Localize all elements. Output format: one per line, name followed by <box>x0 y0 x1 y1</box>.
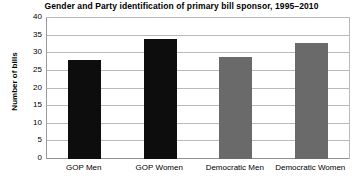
y-axis-tick-label: 30 <box>0 48 42 56</box>
y-axis-tick-label: 35 <box>0 31 42 39</box>
plot-area <box>46 17 350 159</box>
y-axis-tick-label: 20 <box>0 84 42 92</box>
x-axis-tick-label: Democratic Men <box>197 163 273 172</box>
bar-chart: Gender and Party identification of prima… <box>0 0 363 184</box>
y-axis-tick-label: 15 <box>0 101 42 109</box>
x-axis-tick-label: Democratic Women <box>273 163 349 172</box>
bar <box>295 43 328 159</box>
bar-series <box>47 18 349 159</box>
y-axis-tick-label: 10 <box>0 119 42 127</box>
bar <box>219 57 252 159</box>
bar <box>144 39 177 159</box>
x-axis-tick-label: GOP Women <box>122 163 198 172</box>
y-axis-tick-label: 40 <box>0 13 42 21</box>
x-axis-tick-labels: GOP MenGOP WomenDemocratic MenDemocratic… <box>46 163 349 177</box>
y-axis-tick-label: 0 <box>0 154 42 162</box>
x-axis-tick-label: GOP Men <box>46 163 122 172</box>
chart-title: Gender and Party identification of prima… <box>0 1 363 11</box>
y-axis-tick-labels: 0510152025303540 <box>0 17 42 158</box>
y-axis-tick-label: 25 <box>0 66 42 74</box>
bar <box>68 60 101 159</box>
y-axis-tick-label: 5 <box>0 136 42 144</box>
